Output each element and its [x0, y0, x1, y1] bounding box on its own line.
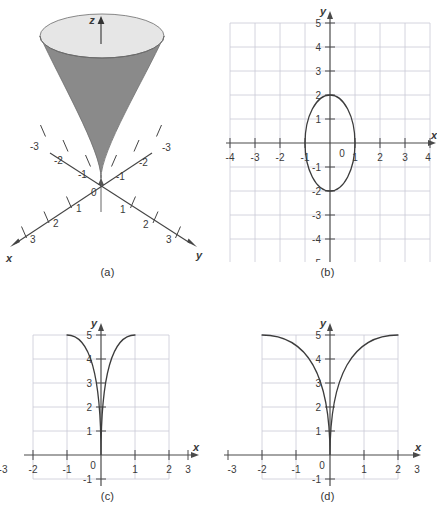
panel-b-caption: (b)	[218, 266, 437, 278]
y-tick-label-neg-1: -1	[78, 169, 87, 180]
x-tick-label-1: 1	[361, 464, 367, 475]
y-tick-label-5: 5	[315, 18, 321, 29]
z-axis-label: z	[88, 14, 95, 26]
x-axis-arrowhead	[10, 239, 20, 247]
x-tick-label-3: 3	[185, 464, 191, 475]
y-tick-label--1: -1	[312, 162, 321, 173]
x-tick-label-neg-1: -1	[116, 171, 125, 182]
y-axis-group: 1 2 3 -1 -2 -3 y	[30, 125, 203, 261]
y-axis-arrowhead	[327, 11, 333, 19]
origin-label: 0	[90, 460, 96, 471]
x-tick-neg-1	[112, 155, 117, 167]
y-axis-arrowhead	[187, 239, 197, 247]
x-tick-label--3: -3	[251, 152, 260, 163]
y-tick-neg-3	[41, 125, 46, 137]
y-tick-label-3: 3	[86, 378, 92, 389]
x-tick-label-2: 2	[53, 218, 59, 229]
panel-b: -4 -3 -2 -1 1 2 3 4 5 4 3	[218, 0, 437, 300]
y-tick-label-4: 4	[315, 42, 321, 53]
x-tick-label--3: -3	[0, 464, 8, 475]
panel-c: -2 -1 1 2 -3 3 5 4 3 2 1 -1 0	[0, 300, 215, 525]
x-tick-label-3: 3	[402, 152, 408, 163]
figure-grid: z 1 2 3 -1 x	[0, 0, 437, 525]
x-tick-label--2: -2	[258, 464, 267, 475]
x-axis-label: x	[430, 129, 437, 141]
x-tick-label--4: -4	[226, 152, 235, 163]
narrow-parabola-plot: -2 -1 1 2 -3 3 5 4 3 2 1 -1 0	[0, 300, 215, 490]
x-tick-label-3: 3	[414, 464, 420, 475]
panel-a: z 1 2 3 -1 x	[0, 0, 215, 300]
y-tick-label-2: 2	[86, 402, 92, 413]
x-tick-label-2: 2	[395, 464, 401, 475]
x-axis-group: 1 2 3 -1 x	[5, 140, 152, 262]
x-tick-label-1: 1	[76, 203, 82, 214]
y-tick-label-2: 2	[143, 219, 149, 230]
x-tick-label--1: -1	[63, 464, 72, 475]
y-tick-label-neg-3: -3	[30, 141, 39, 152]
x-axis-label: x	[414, 441, 422, 453]
y-tick-label-5: 5	[315, 330, 321, 341]
y-tick-neg-1	[86, 155, 91, 167]
x-tick-neg-3	[157, 125, 162, 137]
paraboloid-3d-plot: z 1 2 3 -1 x	[0, 0, 215, 262]
panel-c-caption: (c)	[0, 490, 215, 502]
x-tick-1	[67, 197, 72, 209]
y-tick-label--1: -1	[83, 474, 92, 485]
y-tick-label-neg-2: -2	[54, 155, 63, 166]
x-tick-label--2: -2	[29, 464, 38, 475]
y-tick-label-1: 1	[315, 114, 321, 125]
origin-label: 0	[339, 148, 345, 159]
y-tick-label-2: 2	[315, 90, 321, 101]
y-tick-label--4: -4	[312, 234, 321, 245]
x-tick-label--1: -1	[292, 464, 301, 475]
y-tick-label--1: -1	[312, 474, 321, 485]
y-axis-label: y	[90, 317, 98, 329]
y-axis-arrowhead	[98, 323, 104, 331]
y-tick-neg-2	[63, 140, 68, 152]
y-tick-label-1: 1	[315, 426, 321, 437]
y-tick-label-5: 5	[86, 330, 92, 341]
wide-parabola-plot: -3 -2 -1 1 2 3 5 4 3 2 1 -1 0 x	[218, 300, 437, 490]
y-tick-label-1: 1	[86, 426, 92, 437]
y-tick-label-4: 4	[315, 354, 321, 365]
x-tick-label-neg-3: -3	[162, 142, 171, 153]
x-tick-label-4: 4	[425, 152, 431, 163]
x-axis-label: x	[5, 252, 13, 262]
x-tick-label-2: 2	[166, 464, 172, 475]
y-axis-label: y	[195, 249, 203, 261]
y-axis-label: y	[319, 5, 327, 17]
origin-label: 0	[319, 460, 325, 471]
y-axis-label: y	[319, 317, 327, 329]
ellipse-plot: -4 -3 -2 -1 1 2 3 4 5 4 3	[218, 0, 437, 262]
x-tick-label--2: -2	[276, 152, 285, 163]
paraboloid-surface	[40, 14, 164, 178]
panel-d: -3 -2 -1 1 2 3 5 4 3 2 1 -1 0 x	[218, 300, 437, 525]
origin-label: 0	[91, 187, 97, 198]
x-axis-label: x	[192, 441, 200, 453]
x-axis	[16, 153, 152, 243]
panel-a-caption: (a)	[0, 266, 215, 278]
x-tick-3	[22, 227, 27, 239]
x-tick-label-1: 1	[132, 464, 138, 475]
x-tick-2	[44, 212, 49, 224]
x-tick-label-neg-2: -2	[139, 157, 148, 168]
x-tick-neg-2	[134, 140, 139, 152]
y-tick-label-2: 2	[315, 402, 321, 413]
x-tick-label-2: 2	[377, 152, 383, 163]
x-tick-label-3: 3	[30, 234, 36, 245]
y-tick-label-1: 1	[120, 204, 126, 215]
y-tick-label--3: -3	[312, 210, 321, 221]
y-tick-label-3: 3	[315, 66, 321, 77]
x-tick-label--3: -3	[228, 464, 237, 475]
y-axis-arrowhead	[327, 323, 333, 331]
y-axis	[50, 153, 190, 243]
y-tick-label-3: 3	[166, 234, 172, 245]
panel-d-caption: (d)	[218, 490, 437, 502]
y-tick-label--5: -5	[312, 258, 321, 262]
